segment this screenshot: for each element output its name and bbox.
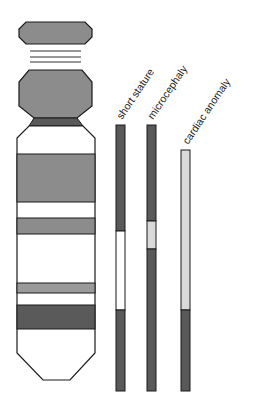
q-arm-band <box>17 305 95 329</box>
chromosome-satellite <box>19 22 92 44</box>
phenotype-bar-cardiac-anomaly: cardiac anomaly <box>180 75 233 391</box>
q-arm-band <box>17 154 95 202</box>
chromosome-phenotype-diagram: short stature microcephaly cardiac anoma… <box>0 0 264 404</box>
chromosome-p-arm <box>19 70 92 118</box>
q-arm-band <box>17 283 95 293</box>
phenotype-label: cardiac anomaly <box>180 75 233 146</box>
chromosome-ideogram <box>17 22 95 380</box>
chromosome-centromere <box>29 118 83 126</box>
q-arm-band <box>17 218 95 234</box>
